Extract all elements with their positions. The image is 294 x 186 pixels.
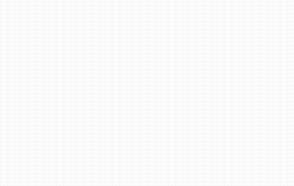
legend-label: AGI Top 1% [194,113,245,124]
legend-item: AGI Bottom 50% [164,97,265,111]
line-chart: Percentage Earned 0510152025303540 20012… [0,0,294,186]
x-axis-label: Year [0,174,294,185]
y-tick-label: 5 [12,117,34,126]
x-tick-label: 2001 [55,123,64,142]
x-tick-label: 2004 [122,123,131,142]
y-tick-label: 0 [12,132,34,141]
legend-marker-icon [164,113,190,123]
legend-label: AGI Bottom 50% [194,99,265,110]
legend-marker-icon [164,99,190,109]
y-tick-label: 15 [12,87,34,96]
x-tick-label: 2003 [100,123,109,142]
x-tick-label: 2002 [78,123,87,142]
y-tick-label: 40 [12,14,34,23]
legend-item: AGI Top 1% [164,111,265,125]
y-tick-label: 20 [12,73,34,82]
y-tick-label: 30 [12,43,34,52]
chart-legend: AGI Bottom 50%AGI Top 1% [159,93,271,129]
y-tick-label: 35 [12,28,34,37]
y-tick-label: 25 [12,58,34,67]
x-tick-label: 2011 [279,123,288,142]
x-tick-label: 2005 [145,123,154,142]
y-tick-label: 10 [12,102,34,111]
